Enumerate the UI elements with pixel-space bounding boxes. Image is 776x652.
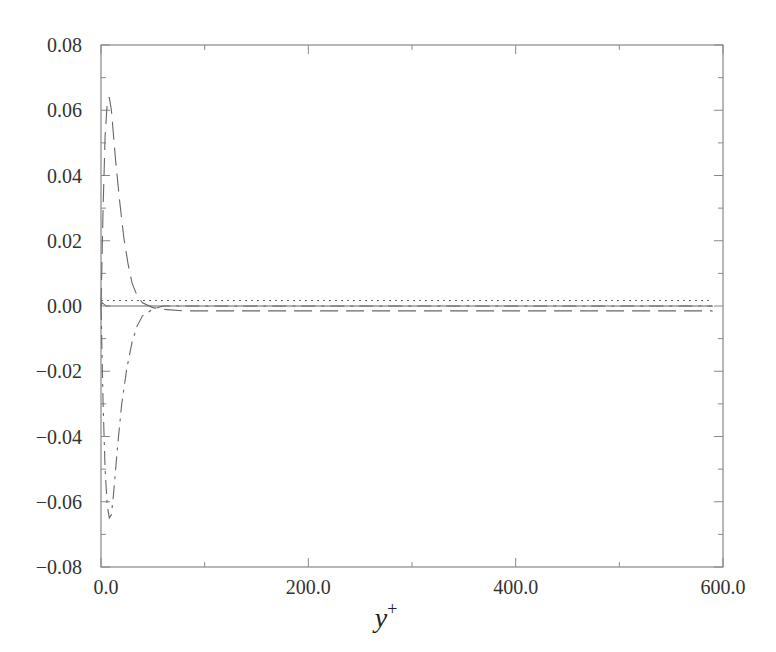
data-series bbox=[101, 97, 713, 518]
line-chart: 0.080.060.040.020.00−0.02−0.04−0.06−0.08… bbox=[0, 0, 776, 652]
x-axis-label: y+ bbox=[372, 599, 398, 633]
y-tick-label: −0.06 bbox=[36, 491, 82, 513]
x-tick-labels: 0.0200.0400.0600.0 bbox=[94, 576, 746, 598]
y-tick-label: 0.04 bbox=[47, 165, 82, 187]
series-long-dash bbox=[101, 97, 713, 311]
series-dash-dot bbox=[101, 306, 713, 518]
x-tick-label: 200.0 bbox=[286, 576, 331, 598]
y-tick-label: −0.04 bbox=[36, 426, 82, 448]
y-tick-label: 0.02 bbox=[47, 230, 82, 252]
x-tick-label: 600.0 bbox=[701, 576, 746, 598]
y-tick-label: −0.02 bbox=[36, 360, 82, 382]
y-tick-label: 0.08 bbox=[47, 34, 82, 56]
x-tick-label: 400.0 bbox=[493, 576, 538, 598]
y-tick-label: 0.06 bbox=[47, 99, 82, 121]
y-tick-label: −0.08 bbox=[36, 556, 82, 578]
y-tick-label: 0.00 bbox=[47, 295, 82, 317]
y-tick-labels: 0.080.060.040.020.00−0.02−0.04−0.06−0.08 bbox=[36, 34, 82, 578]
x-tick-label: 0.0 bbox=[94, 576, 119, 598]
